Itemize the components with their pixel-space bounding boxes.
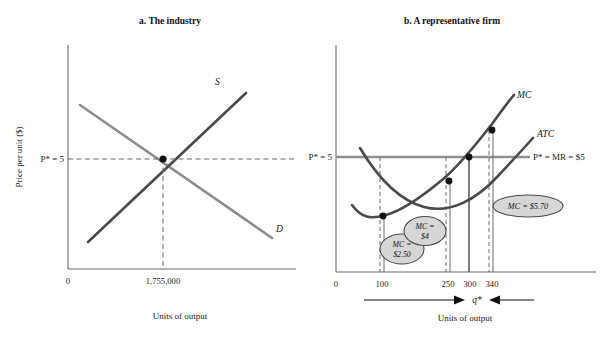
industry-x-axis-label: Units of output (153, 311, 208, 321)
qstar-label: q* (472, 295, 482, 305)
demand-curve-label: D (275, 223, 283, 234)
marginal-revenue-label: P* = MR = $5 (533, 152, 585, 162)
industry-origin-label: 0 (66, 276, 70, 286)
firm-x-axis-label: Units of output (438, 313, 493, 323)
firm-x-tick-250: 250 (442, 279, 455, 289)
callout-mc-4-bubble (404, 217, 446, 246)
economics-figure: a. The industry Price per unit ($) S D P… (0, 0, 603, 339)
industry-price-label: P* = 5 (40, 154, 64, 164)
callout-mc-4-line1: MC = (415, 222, 435, 231)
atc-curve-label: ATC (536, 128, 555, 139)
mc-point-qstar (466, 154, 473, 161)
industry-y-axis-label: Price per unit ($) (14, 126, 24, 187)
callout-mc-4: MC = $4 (404, 217, 446, 246)
industry-equilibrium-point (159, 155, 166, 162)
supply-curve-label: S (215, 76, 220, 87)
figure-background (0, 0, 603, 339)
firm-x-tick-100: 100 (376, 279, 389, 289)
callout-mc-5-70: MC = $5.70 (493, 195, 563, 217)
mc-point-q100 (380, 213, 387, 220)
mc-point-q250 (446, 178, 453, 185)
firm-x-tick-300: 300 (464, 279, 477, 289)
firm-origin-label: 0 (334, 279, 338, 289)
firm-price-label: P* = 5 (308, 152, 332, 162)
mc-curve-label: MC (516, 89, 532, 100)
callout-mc-2-50-line1: MC = (392, 240, 412, 249)
callout-mc-5-70-line1: MC = $5.70 (507, 202, 548, 211)
mc-point-q340 (489, 127, 496, 134)
callout-mc-4-line2: $4 (421, 232, 429, 241)
firm-x-tick-340: 340 (486, 279, 499, 289)
callout-mc-2-50-line2: $2.50 (393, 250, 411, 259)
panel-industry-title: a. The industry (139, 16, 201, 26)
panel-firm-title: b. A representative firm (404, 16, 500, 26)
industry-x-tick-label: 1,755,000 (146, 276, 180, 286)
